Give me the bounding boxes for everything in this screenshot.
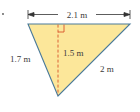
right-side-label: 2 m	[100, 64, 114, 74]
bullet-dot	[2, 13, 4, 15]
base-dimension-label: 2.1 m	[67, 10, 88, 20]
arrow-left-icon	[28, 13, 34, 17]
height-label: 1.5 m	[63, 48, 84, 58]
triangle-diagram: 2.1 m 1.7 m 1.5 m 2 m	[0, 0, 140, 112]
arrow-right-icon	[124, 13, 130, 17]
left-side-label: 1.7 m	[10, 54, 31, 64]
triangle-shape	[28, 24, 130, 96]
